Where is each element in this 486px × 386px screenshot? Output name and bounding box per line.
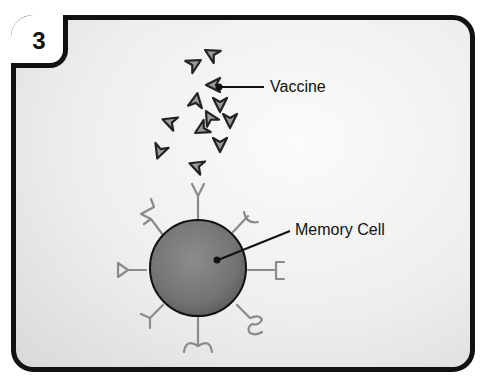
- vaccine-particle-icon: [188, 92, 204, 108]
- memory-cell-leader-dot: [214, 257, 221, 264]
- vaccine-leader-dot: [216, 84, 223, 91]
- vaccine-label: Vaccine: [270, 78, 326, 96]
- receptor-triangle-icon: [118, 263, 146, 277]
- receptor-fork-icon: [141, 305, 163, 328]
- vaccine-particle-icon: [202, 44, 221, 63]
- vaccine-particles: [151, 44, 237, 175]
- vaccine-particle-icon: [160, 113, 178, 131]
- vaccine-particle-icon: [187, 157, 205, 175]
- vaccine-particle-icon: [185, 54, 204, 73]
- receptor-squiggle-icon: [237, 305, 262, 334]
- vaccine-particle-icon: [223, 114, 237, 128]
- memory-cell-label: Memory Cell: [295, 221, 385, 239]
- receptor-zigzag-icon: [141, 199, 163, 235]
- vaccine-particle-icon: [213, 98, 227, 112]
- vaccine-particle-icon: [213, 138, 227, 152]
- vaccine-particle-icon: [151, 143, 169, 161]
- receptor-bracket-icon: [248, 262, 284, 279]
- receptor-y-icon: [192, 184, 204, 221]
- receptor-arch-icon: [184, 315, 212, 352]
- diagram-art: [0, 0, 486, 386]
- receptor-cup-icon: [233, 212, 258, 232]
- memory-cell: [150, 220, 246, 316]
